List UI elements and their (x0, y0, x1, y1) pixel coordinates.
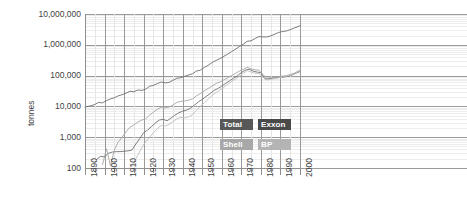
x-tick-label: 1890 (89, 158, 99, 177)
x-tick-label: 1940 (187, 158, 197, 177)
x-tick (105, 169, 106, 175)
chart-legend: Total Exxon Shell BP (220, 119, 296, 157)
x-tick-label: 2000 (304, 158, 314, 177)
x-tick (163, 169, 164, 175)
x-tick-label: 1900 (109, 158, 119, 177)
legend-item-total[interactable]: Total (220, 119, 253, 130)
x-tick-label: 1980 (265, 158, 275, 177)
x-tick-label: 1920 (148, 158, 158, 177)
x-tick (183, 169, 184, 175)
x-tick (241, 169, 242, 175)
x-tick (202, 169, 203, 175)
x-tick-label: 1910 (128, 158, 138, 177)
legend-item-exxon[interactable]: Exxon (258, 119, 291, 130)
y-tick-label: 10,000 (3, 102, 81, 111)
gridline-major-v (300, 14, 301, 168)
y-tick-label: 100 (3, 164, 81, 173)
x-tick-label: 1990 (284, 158, 294, 177)
x-tick (300, 169, 301, 175)
y-axis-labels: 10,000,0001,000,000100,00010,0001,000100 (0, 0, 81, 207)
y-axis-title: tonnes (26, 100, 36, 126)
chart-container: 10,000,0001,000,000100,00010,0001,000100… (0, 0, 467, 207)
y-tick-label: 1,000,000 (3, 40, 81, 49)
x-tick (222, 169, 223, 175)
x-tick (124, 169, 125, 175)
x-tick (261, 169, 262, 175)
legend-item-shell[interactable]: Shell (220, 139, 253, 150)
x-tick-label: 1950 (206, 158, 216, 177)
legend-item-bp[interactable]: BP (258, 139, 291, 150)
y-tick-label: 10,000,000 (3, 10, 81, 19)
y-tick-label: 100,000 (3, 71, 81, 80)
y-axis-line (85, 14, 86, 169)
y-tick-label: 1,000 (3, 133, 81, 142)
x-tick (144, 169, 145, 175)
series-line-total (85, 26, 300, 107)
x-tick (280, 169, 281, 175)
x-tick-label: 1970 (245, 158, 255, 177)
x-tick-label: 1960 (226, 158, 236, 177)
x-tick-label: 1930 (167, 158, 177, 177)
x-tick (85, 169, 86, 175)
